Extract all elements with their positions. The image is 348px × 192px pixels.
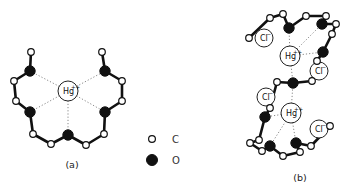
legend-item-o: O [147,155,181,166]
filled-circle-icon [147,155,158,166]
carbon-atom [333,21,340,28]
molecular-structure-figure: Hg++ Hg++Hg++Cl−Cl−Cl−Cl− CO (a) (b) [0,0,348,192]
carbon-atom [256,137,263,144]
carbon-atom [280,153,287,160]
chloride-ion: Cl− [257,88,275,106]
carbon-atom [119,98,126,105]
carbon-atom [274,79,281,86]
carbon-atom [11,78,18,85]
open-circle-icon [149,136,156,143]
ion-charge: − [322,64,327,70]
oxygen-atom [63,130,73,140]
carbon-atom [13,98,20,105]
oxygen-atom [317,19,327,29]
carbon-atom [280,11,287,18]
carbon-atom [308,143,315,150]
carbon-atom [267,15,274,22]
carbon-atom [327,123,334,130]
oxygen-atom [318,47,328,57]
oxygen-atom [288,78,298,88]
carbon-atom [28,49,35,56]
carbon-atom [297,149,304,156]
oxygen-atom [260,112,270,122]
oxygen-atom [100,107,110,117]
oxygen-atom [284,23,294,33]
mercury-ion: Hg++ [58,81,81,101]
ion-charge: − [267,31,272,37]
oxygen-atom [25,66,35,76]
mercury-ion: Hg++ [281,103,304,123]
oxygen-atom [25,107,35,117]
ion-charge: − [269,90,274,96]
panel-label-b: (b) [293,172,306,183]
ion-charge: ++ [71,84,81,90]
carbon-atom [30,131,37,138]
chloride-ion: Cl− [310,120,328,138]
carbon-atom [267,105,274,112]
legend-item-c: C [149,134,179,145]
mercury-ion: Hg++ [280,46,303,66]
carbon-atom [329,31,336,38]
carbon-atom [247,140,254,147]
carbon-atom [246,35,253,42]
oxygen-atom [265,141,275,151]
panel-label-a: (a) [65,159,78,170]
carbon-atom [48,141,55,148]
carbon-atom [303,13,310,20]
carbon-atom [119,78,126,85]
carbon-atom [259,148,266,155]
panel-a-crown-ether-hg-complex: Hg++ [11,49,126,149]
ion-charge: − [322,122,327,128]
carbon-atom [323,13,330,20]
legend: CO [147,134,181,166]
carbon-atom [83,142,90,149]
carbon-atom [314,58,321,65]
carbon-atom [309,78,316,85]
legend-label: O [172,155,180,166]
ion-charge: ++ [293,49,303,55]
carbon-atom [99,49,106,56]
oxygen-atom [291,138,301,148]
legend-label: C [172,134,179,145]
carbon-atom [101,131,108,138]
chloride-ion: Cl− [255,29,273,47]
ion-charge: ++ [294,106,304,112]
oxygen-atom [100,66,110,76]
panel-b-double-helix-hgcl-complex: Hg++Hg++Cl−Cl−Cl−Cl− [246,11,340,160]
